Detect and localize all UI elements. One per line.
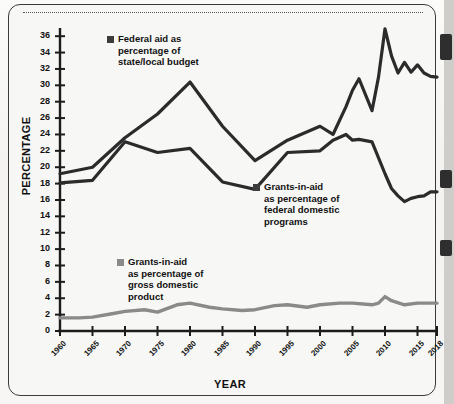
legend-federal-line1: Federal aid as [118,33,181,44]
y-tick-label: 30 [28,79,50,89]
legend-domestic-line1: Grants-in-aid [264,181,323,192]
y-tick-label: 34 [28,47,50,57]
y-tick-label: 12 [28,227,50,237]
legend-gdp-line4: product [117,291,245,303]
legend-federal-line3: state/local budget [107,56,237,68]
y-tick-label: 10 [28,243,50,253]
x-axis-title: YEAR [170,378,290,390]
legend-gdp-line2: as percentage of [117,268,245,280]
legend-swatch-icon [253,184,260,191]
legend-gdp-line3: gross domestic [117,279,245,291]
y-tick-label: 14 [28,210,50,220]
y-tick-label: 2 [28,309,50,319]
legend-federal-aid: Federal aid as percentage of state/local… [107,33,237,68]
line-chart: 024681012141618202224262830323436 196019… [0,0,454,404]
legend-federal-line2: percentage of [107,45,237,57]
legend-gross-domestic-product: Grants-in-aid as percentage of gross dom… [117,256,245,302]
y-tick-label: 0 [28,325,50,335]
y-tick-label: 36 [28,30,50,40]
legend-federal-domestic-programs: Grants-in-aid as percentage of federal d… [253,181,381,227]
y-tick-label: 8 [28,259,50,269]
legend-swatch-icon [117,259,124,266]
y-tick-label: 32 [28,63,50,73]
legend-swatch-icon [107,36,114,43]
y-tick-label: 6 [28,276,50,286]
legend-domestic-line2: as percentage of [253,193,381,205]
legend-domestic-line4: programs [253,216,381,228]
legend-gdp-line1: Grants-in-aid [128,256,187,267]
page-root: 024681012141618202224262830323436 196019… [0,0,454,404]
legend-domestic-line3: federal domestic [253,204,381,216]
y-tick-label: 4 [28,292,50,302]
y-axis-title: PERCENTAGE [20,101,32,211]
